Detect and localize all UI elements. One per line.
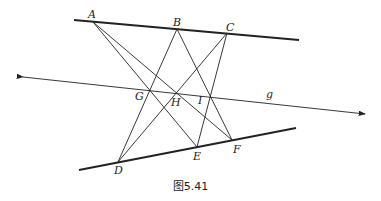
segment-a-f <box>93 22 232 140</box>
line-g <box>23 77 365 114</box>
bottom-line <box>79 128 296 170</box>
point-label-g: G <box>135 90 144 103</box>
top-line <box>74 20 299 40</box>
point-label-b: B <box>172 16 181 29</box>
point-label-h: H <box>170 96 181 109</box>
point-label-f: F <box>232 143 241 156</box>
point-label-e: E <box>192 150 201 163</box>
geometry-diagram: A B C D E F G H I g <box>0 0 381 201</box>
line-g-label: g <box>266 88 273 101</box>
point-label-c: C <box>226 21 235 34</box>
point-label-i: I <box>197 94 203 107</box>
figure-caption: 图5.41 <box>0 177 381 193</box>
point-label-a: A <box>87 8 96 21</box>
segment-b-d <box>118 29 177 162</box>
segment-a-e <box>93 22 197 147</box>
point-label-d: D <box>113 164 123 177</box>
